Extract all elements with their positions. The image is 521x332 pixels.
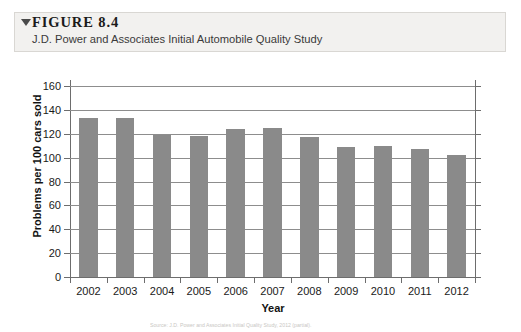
x-axis-title: Year [70, 302, 476, 314]
y-axis-tick-right [475, 158, 481, 159]
x-axis-tick-label: 2007 [260, 285, 284, 297]
bar-2012 [447, 155, 465, 277]
y-axis-tick [64, 182, 70, 183]
x-axis-tick-label: 2008 [297, 285, 321, 297]
x-axis-tick-label: 2002 [76, 285, 100, 297]
gridline [70, 110, 475, 111]
y-axis-tick [64, 229, 70, 230]
y-axis-tick [64, 205, 70, 206]
y-axis-tick-label: 100 [43, 152, 61, 164]
figure-header-band: FIGURE 8.4 J.D. Power and Associates Ini… [14, 12, 506, 52]
y-axis-tick-right [475, 229, 481, 230]
bar-2003 [116, 118, 134, 277]
x-axis-tick-label: 2006 [223, 285, 247, 297]
x-axis-tick-label: 2010 [371, 285, 395, 297]
y-axis-tick-label: 0 [55, 271, 61, 283]
y-axis-tick-right [475, 134, 481, 135]
y-axis-tick-right [475, 110, 481, 111]
y-axis-tick [64, 253, 70, 254]
x-axis-tick [70, 277, 71, 283]
x-axis-tick-label: 2009 [334, 285, 358, 297]
x-axis-tick [254, 277, 255, 283]
x-axis-tick [365, 277, 366, 283]
y-axis-tick-label: 160 [43, 80, 61, 92]
figure-caption: J.D. Power and Associates Initial Automo… [32, 33, 322, 45]
bar-2007 [263, 128, 281, 277]
x-axis-tick [144, 277, 145, 283]
x-axis-tick [328, 277, 329, 283]
bar-2005 [190, 136, 208, 277]
y-axis-tick-right [475, 253, 481, 254]
y-axis-tick [64, 158, 70, 159]
y-axis-tick-label: 60 [49, 199, 61, 211]
bar-2004 [153, 135, 171, 277]
x-axis-tick [438, 277, 439, 283]
bar-2011 [411, 149, 429, 277]
y-axis-title: Problems per 100 cars sold [31, 66, 43, 266]
bar-2010 [374, 146, 392, 277]
x-axis-line [70, 277, 476, 278]
x-axis-tick-label: 2011 [408, 285, 432, 297]
x-axis-tick-label: 2012 [444, 285, 468, 297]
bar-2006 [226, 129, 244, 277]
y-axis-tick-label: 120 [43, 128, 61, 140]
y-axis-tick [64, 86, 70, 87]
x-axis-tick-label: 2004 [150, 285, 174, 297]
y-axis-tick [64, 134, 70, 135]
x-axis-tick [291, 277, 292, 283]
y-axis-tick-label: 140 [43, 104, 61, 116]
triangle-down-icon [21, 19, 31, 26]
bar-2002 [79, 118, 97, 277]
x-axis-tick [107, 277, 108, 283]
x-axis-tick [217, 277, 218, 283]
x-axis-tick [180, 277, 181, 283]
x-axis-tick [401, 277, 402, 283]
y-axis-tick-right [475, 205, 481, 206]
y-axis-tick [64, 110, 70, 111]
x-axis-tick-label: 2003 [113, 285, 137, 297]
bar-chart: Problems per 100 cars sold 0204060801001… [0, 60, 521, 315]
y-axis-tick-label: 80 [49, 176, 61, 188]
plot-area: 020406080100120140160 [70, 86, 475, 277]
y-axis-tick-right [475, 86, 481, 87]
y-axis-tick-label: 20 [49, 247, 61, 259]
bar-2008 [300, 137, 318, 277]
gridline [70, 86, 475, 87]
x-axis-tick-label: 2005 [187, 285, 211, 297]
x-axis-tick [475, 277, 476, 283]
figure-number: FIGURE 8.4 [32, 14, 119, 31]
source-note: Source: J.D. Power and Associates Initia… [150, 322, 510, 328]
y-axis-tick-right [475, 182, 481, 183]
bar-2009 [337, 147, 355, 277]
y-axis-tick-label: 40 [49, 223, 61, 235]
